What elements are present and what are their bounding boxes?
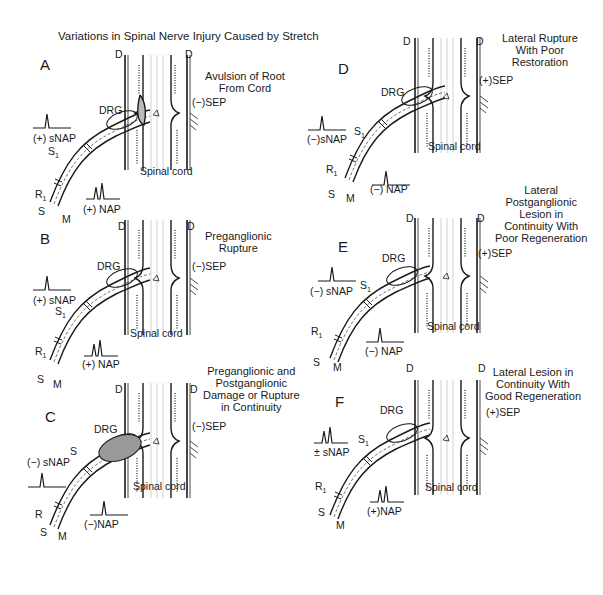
r1-label: R1	[35, 188, 47, 202]
s1-label: S1	[48, 145, 59, 159]
panel-e-caption: Lateral Postganglionic Lesion in Continu…	[495, 184, 587, 244]
caption-line: Postganglionic	[203, 377, 300, 389]
s1-label: S1	[358, 433, 369, 447]
s-label: S	[318, 506, 325, 518]
spinal-cord-label: Spinal cord	[425, 481, 478, 493]
nap-label: (−) NAP	[370, 183, 408, 195]
s1-label: S1	[354, 125, 365, 139]
caption-line: Avulsion of Root	[205, 70, 285, 82]
caption-line: Continuity With	[495, 220, 587, 232]
snap-label: (+) sNAP	[33, 132, 76, 144]
r1-label: R1	[311, 325, 323, 339]
s-label: S	[38, 205, 45, 217]
dura-label-right: D	[190, 383, 198, 395]
panel-c-caption: Preganglionic and Postganglionic Damage …	[203, 365, 300, 413]
nap-label: (+)NAP	[367, 505, 402, 517]
panel-d-caption: Lateral Rupture With Poor Restoration	[502, 32, 578, 68]
dura-label-left: D	[403, 35, 411, 47]
s-label: S	[40, 526, 47, 538]
panel-c-letter: C	[45, 408, 56, 425]
caption-line: Lateral Lesion in	[485, 366, 581, 378]
nerve-diagram-artwork	[0, 0, 603, 595]
panel-d-letter: D	[338, 60, 349, 77]
m-label: M	[58, 530, 67, 542]
panel-a-letter: A	[40, 56, 50, 73]
snap-label: (−) sNAP	[27, 456, 70, 468]
snap-label: (−)sNAP	[307, 133, 347, 145]
sep-label: (−)SEP	[192, 260, 226, 272]
drg-label: DRG	[381, 86, 404, 98]
spinal-cord-label: Spinal cord	[133, 480, 186, 492]
sep-label: (−)SEP	[192, 420, 226, 432]
drg-label: DRG	[94, 423, 117, 435]
panel-a-caption: Avulsion of Root From Cord	[205, 70, 285, 94]
caption-line: Lateral	[495, 184, 587, 196]
s-label: S	[37, 373, 44, 385]
caption-line: Lateral Rupture	[502, 32, 578, 44]
s-label: S	[313, 356, 320, 368]
panel-f-letter: F	[335, 393, 344, 410]
caption-line: With Poor	[502, 44, 578, 56]
sep-label: (+)SEP	[486, 406, 520, 418]
spinal-cord-label: Spinal cord	[428, 140, 481, 152]
nap-label: (+) NAP	[83, 203, 121, 215]
dura-label-right: D	[185, 48, 193, 60]
caption-line: Continuity With	[485, 378, 581, 390]
caption-line: From Cord	[205, 82, 285, 94]
caption-line: Good Regeneration	[485, 390, 581, 402]
dura-label-left: D	[115, 48, 123, 60]
r1-label: R1	[315, 480, 327, 494]
r1-label: R1	[35, 345, 47, 359]
spinal-cord-label: Spinal cord	[130, 327, 183, 339]
dura-label-right: D	[477, 212, 485, 224]
s1-label: S	[70, 445, 77, 457]
m-label: M	[336, 519, 345, 531]
panel-e-letter: E	[338, 238, 348, 255]
snap-label: (−) sNAP	[310, 285, 353, 297]
snap-label: ± sNAP	[314, 446, 350, 458]
s1-label: S1	[55, 305, 66, 319]
sep-label: (+)SEP	[479, 74, 513, 86]
dura-label-left: D	[406, 362, 414, 374]
spinal-cord-label: Spinal cord	[427, 320, 480, 332]
drg-label: DRG	[99, 104, 122, 116]
caption-line: Restoration	[502, 56, 578, 68]
caption-line: Rupture	[205, 242, 272, 254]
drg-label: DRG	[380, 404, 403, 416]
s-label: S	[328, 188, 335, 200]
caption-line: Preganglionic and	[203, 365, 300, 377]
caption-line: Lesion in	[495, 208, 587, 220]
r1-label: R	[35, 508, 43, 520]
r1-label: R1	[326, 163, 338, 177]
drg-label: DRG	[382, 252, 405, 264]
m-label: M	[346, 192, 355, 204]
caption-line: Poor Regeneration	[495, 232, 587, 244]
caption-line: Preganglionic	[205, 230, 272, 242]
sep-label: (−)SEP	[192, 96, 226, 108]
drg-label: DRG	[97, 260, 120, 272]
caption-line: Damage or Rupture	[203, 389, 300, 401]
dura-label-right: D	[476, 35, 484, 47]
panel-b-letter: B	[40, 230, 50, 247]
spinal-cord-label: Spinal cord	[140, 165, 193, 177]
dura-label-left: D	[118, 220, 126, 232]
dura-label-left: D	[406, 212, 414, 224]
dura-label-left: D	[115, 383, 123, 395]
m-label: M	[62, 213, 71, 225]
m-label: M	[333, 361, 342, 373]
s1-label: S1	[360, 279, 371, 293]
nap-label: (−)NAP	[84, 518, 119, 530]
dura-label-right: D	[478, 362, 486, 374]
panel-b-caption: Preganglionic Rupture	[205, 230, 272, 254]
caption-line: in Continuity	[203, 401, 300, 413]
nap-label: (−) NAP	[365, 345, 403, 357]
m-label: M	[53, 378, 62, 390]
dura-label-right: D	[187, 220, 195, 232]
caption-line: Postganglionic	[495, 196, 587, 208]
panel-f-caption: Lateral Lesion in Continuity With Good R…	[485, 366, 581, 402]
sep-label: (+)SEP	[478, 247, 512, 259]
nap-label: (+) NAP	[82, 358, 120, 370]
